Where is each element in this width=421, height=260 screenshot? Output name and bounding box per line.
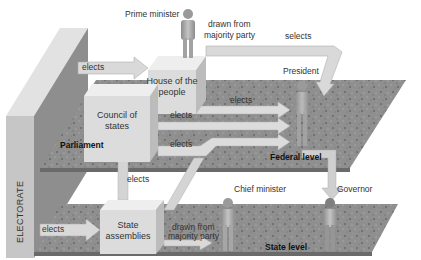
council-of-states-label-1: Council of xyxy=(97,110,138,120)
state-level-label: State level xyxy=(265,242,307,252)
state-assemblies-label-2: assemblies xyxy=(105,231,151,241)
state-assemblies-block: State assemblies xyxy=(100,200,164,254)
elects-label-electorate-house: elects xyxy=(82,62,104,72)
drawn-from-label-2: majority party xyxy=(204,30,256,40)
drawn-from-label-1: drawn from xyxy=(208,19,251,29)
council-of-states-label-2: states xyxy=(105,121,130,131)
government-structure-diagram: ELECTORATE xyxy=(0,0,421,260)
elects-label-electorate-assemblies: elects xyxy=(42,224,64,234)
elects-label-assemblies-president: elects xyxy=(170,139,192,149)
prime-minister-figure xyxy=(181,9,195,58)
chief-minister-label: Chief minister xyxy=(234,184,286,194)
parliament-label: Parliament xyxy=(60,140,104,150)
elects-label-house-president: elects xyxy=(230,95,252,105)
drawn-from-label-state-2: majority party xyxy=(168,231,220,241)
state-assemblies-label-1: State xyxy=(117,220,138,230)
house-of-the-people-label-2: people xyxy=(158,87,185,97)
prime-minister-label: Prime minister xyxy=(125,9,179,19)
governor-label: Governor xyxy=(337,184,373,194)
selects-label: selects xyxy=(285,31,311,41)
elects-label-council-president: elects xyxy=(170,110,192,120)
electorate-label: ELECTORATE xyxy=(15,181,25,243)
council-of-states-block: Council of states xyxy=(84,84,158,162)
elects-label-assemblies-council: elects xyxy=(127,174,149,184)
president-label: President xyxy=(283,66,320,76)
federal-level-label: Federal level xyxy=(270,152,322,162)
